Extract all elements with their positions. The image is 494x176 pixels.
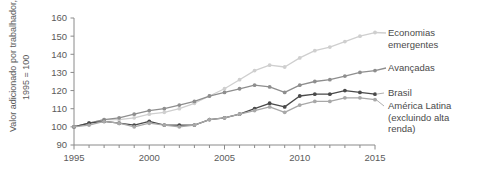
data-point bbox=[328, 45, 332, 49]
data-point bbox=[87, 123, 91, 127]
legend-label-text: Brasil bbox=[388, 87, 412, 98]
data-point bbox=[358, 34, 362, 38]
chart-legend: EconomiasemergentesAvançadasBrasilAméric… bbox=[375, 27, 452, 134]
legend-label-text: emergentes bbox=[388, 39, 438, 50]
data-point bbox=[313, 80, 317, 84]
data-point bbox=[117, 121, 121, 125]
data-point bbox=[268, 105, 272, 109]
data-point bbox=[162, 110, 166, 114]
data-point bbox=[253, 83, 257, 87]
data-point bbox=[177, 103, 181, 107]
data-point bbox=[177, 107, 181, 111]
series-lines bbox=[72, 31, 377, 129]
data-point bbox=[132, 116, 136, 120]
data-point bbox=[238, 112, 242, 116]
data-point bbox=[358, 90, 362, 94]
data-point bbox=[313, 92, 317, 96]
data-point bbox=[147, 112, 151, 116]
legend-item-1: Economiasemergentes bbox=[375, 27, 438, 50]
data-point bbox=[283, 90, 287, 94]
legend-leader-line bbox=[376, 93, 384, 94]
data-point bbox=[328, 92, 332, 96]
legend-label-text: Economias bbox=[388, 27, 435, 38]
y-tick-label: 120 bbox=[51, 85, 67, 96]
data-point bbox=[283, 110, 287, 114]
legend-leader-line bbox=[376, 100, 384, 106]
legend-item-2: Avançadas bbox=[375, 62, 435, 73]
data-point bbox=[72, 125, 76, 129]
line-chart: Valor adicionado por trabalhador, 1995 =… bbox=[0, 0, 494, 176]
data-point bbox=[358, 96, 362, 100]
x-tick-label: 2005 bbox=[214, 152, 235, 163]
y-tick-label: 140 bbox=[51, 49, 67, 60]
data-point bbox=[177, 125, 181, 129]
data-point bbox=[328, 100, 332, 104]
data-point bbox=[298, 56, 302, 60]
y-tick-label: 160 bbox=[51, 12, 67, 23]
y-axis-ticks: 90100110120130140150160 bbox=[51, 12, 74, 150]
data-point bbox=[117, 116, 121, 120]
data-point bbox=[132, 112, 136, 116]
data-point bbox=[343, 89, 347, 93]
legend-label-text: (excluindo alta bbox=[388, 112, 450, 123]
data-point bbox=[328, 78, 332, 82]
data-point bbox=[208, 118, 212, 122]
data-point bbox=[193, 123, 197, 127]
x-tick-label: 2015 bbox=[364, 152, 385, 163]
y-axis-title-line2: 1995 = 100 bbox=[21, 55, 31, 100]
data-point bbox=[147, 121, 151, 125]
data-point bbox=[283, 105, 287, 109]
data-point bbox=[283, 65, 287, 69]
legend-item-3: Brasil bbox=[376, 87, 412, 98]
legend-label-text: América Latina bbox=[388, 100, 452, 111]
y-tick-label: 130 bbox=[51, 67, 67, 78]
data-point bbox=[162, 107, 166, 111]
data-point bbox=[162, 123, 166, 127]
legend-label-text: renda) bbox=[388, 123, 415, 134]
legend-label-text: Avançadas bbox=[388, 62, 435, 73]
data-point bbox=[238, 87, 242, 91]
data-point bbox=[343, 74, 347, 78]
legend-item-4: América Latina(excluindo altarenda) bbox=[376, 100, 452, 135]
y-tick-label: 110 bbox=[52, 103, 67, 114]
y-tick-label: 100 bbox=[51, 121, 67, 132]
data-point bbox=[147, 109, 151, 113]
series-4 bbox=[72, 96, 377, 129]
data-point bbox=[313, 49, 317, 53]
data-point bbox=[102, 120, 106, 124]
data-point bbox=[223, 116, 227, 120]
data-point bbox=[358, 71, 362, 75]
data-point bbox=[343, 96, 347, 100]
data-point bbox=[208, 94, 212, 98]
data-point bbox=[268, 63, 272, 67]
x-axis-ticks: 19952000200520102015 bbox=[63, 145, 385, 163]
x-tick-label: 2000 bbox=[139, 152, 160, 163]
data-point bbox=[298, 103, 302, 107]
x-tick-label: 2010 bbox=[289, 152, 310, 163]
legend-leader-line bbox=[375, 68, 386, 71]
x-tick-label: 1995 bbox=[63, 152, 84, 163]
data-point bbox=[238, 78, 242, 82]
data-point bbox=[343, 40, 347, 44]
data-point bbox=[268, 101, 272, 105]
y-tick-label: 90 bbox=[56, 139, 67, 150]
data-point bbox=[132, 125, 136, 129]
y-axis-title-line1: Valor adicionado por trabalhador, bbox=[8, 0, 18, 132]
data-point bbox=[253, 69, 257, 73]
chart-container: Valor adicionado por trabalhador, 1995 =… bbox=[0, 0, 494, 176]
data-point bbox=[298, 83, 302, 87]
y-axis-title: Valor adicionado por trabalhador, 1995 =… bbox=[8, 0, 31, 132]
data-point bbox=[253, 109, 257, 113]
data-point bbox=[313, 100, 317, 104]
y-tick-label: 150 bbox=[51, 31, 67, 42]
data-point bbox=[223, 90, 227, 94]
data-point bbox=[298, 94, 302, 98]
data-point bbox=[193, 100, 197, 104]
data-point bbox=[223, 87, 227, 91]
data-point bbox=[268, 85, 272, 89]
